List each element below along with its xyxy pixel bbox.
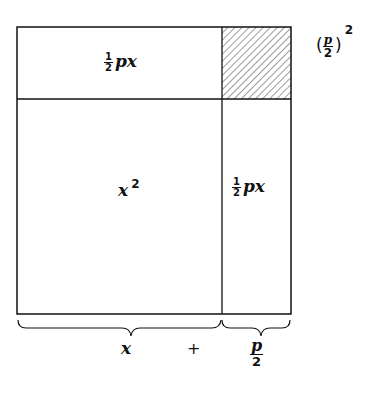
frac-den: 2 xyxy=(105,63,112,73)
frac-num: p xyxy=(250,338,263,355)
frac-den: 2 xyxy=(233,188,240,198)
exponent: 2 xyxy=(345,23,353,37)
paren-close: ) xyxy=(335,35,342,55)
exponent: 2 xyxy=(131,177,139,191)
brace-label-p-half: p2 xyxy=(250,338,265,368)
plus-sign: + xyxy=(187,341,200,357)
diagram-canvas xyxy=(0,0,369,399)
brace-p-half xyxy=(222,320,290,336)
expr: px xyxy=(243,176,265,196)
expr: px xyxy=(115,51,137,71)
brace-label-x: x xyxy=(121,340,131,357)
label-half-px-top: 12px xyxy=(104,52,137,73)
frac-den: 2 xyxy=(252,355,261,368)
brace-x xyxy=(18,320,221,336)
label-half-px-right: 12px xyxy=(232,177,265,198)
frac-den: 2 xyxy=(324,47,332,59)
label-p-half-squared: (p2)2 xyxy=(316,34,353,59)
label-x-squared: x2 xyxy=(118,182,140,199)
expr: x xyxy=(118,180,128,200)
hatched-square xyxy=(222,27,291,99)
paren-open: ( xyxy=(316,35,323,55)
